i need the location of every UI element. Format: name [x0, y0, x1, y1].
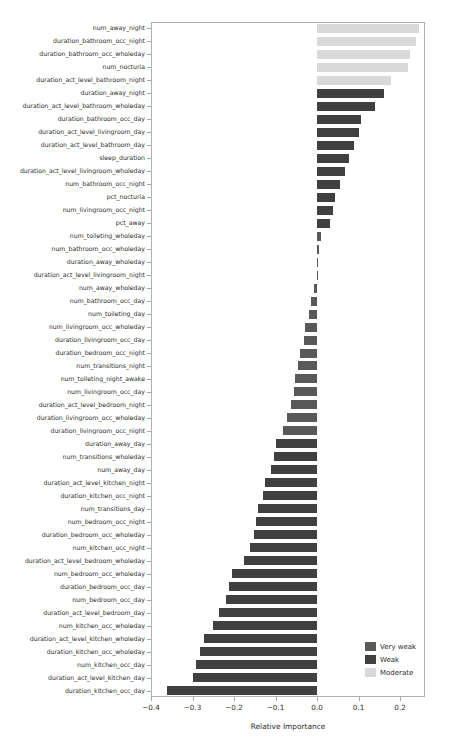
x-axis-tick-label: 0.2	[394, 703, 405, 712]
relative-importance-bar-chart: num_away_nightduration_bathroom_occ_nigh…	[0, 0, 451, 750]
bar	[317, 89, 384, 98]
bar	[276, 439, 318, 448]
y-axis-tick-label: duration_kitchen_occ_night	[0, 492, 145, 499]
y-axis-tick-label: num_toileting_wholeday	[0, 232, 145, 239]
bar	[294, 387, 317, 396]
y-axis-tick	[147, 288, 151, 289]
y-axis-tick	[147, 483, 151, 484]
bar	[317, 258, 318, 267]
y-axis-tick-label: duration_act_level_livingroom_day	[0, 128, 145, 135]
bar	[317, 154, 349, 163]
bar	[196, 660, 317, 669]
legend: Very weakWeakModerate	[361, 637, 421, 682]
bar	[213, 621, 317, 630]
y-axis-tick	[147, 652, 151, 653]
y-axis-tick	[147, 249, 151, 250]
x-axis-tick	[193, 697, 194, 701]
y-axis-tick	[147, 613, 151, 614]
y-axis-tick	[147, 418, 151, 419]
y-axis-tick-label: duration_act_level_kitchen_wholeday	[0, 635, 145, 642]
y-axis-tick-label: duration_act_level_bedroom_wholeday	[0, 557, 145, 564]
y-axis-tick-label: duration_bathroom_occ_night	[0, 37, 145, 44]
y-axis-tick-label: duration_act_level_kitchen_day	[0, 674, 145, 681]
y-axis-tick-label: num_bathroom_occ_day	[0, 297, 145, 304]
x-axis-tick	[317, 697, 318, 701]
y-axis-tick-label: num_transitions_day	[0, 505, 145, 512]
y-axis-tick-label: num_transitions_wholeday	[0, 453, 145, 460]
y-axis-tick	[147, 28, 151, 29]
x-axis-tick	[359, 697, 360, 701]
bar	[271, 465, 317, 474]
bar	[317, 37, 416, 46]
y-axis-tick	[147, 145, 151, 146]
x-axis-tick	[400, 697, 401, 701]
y-axis-tick-label: num_away_day	[0, 466, 145, 473]
y-axis-tick-label: num_bedroom_occ_wholeday	[0, 570, 145, 577]
y-axis-tick	[147, 548, 151, 549]
y-axis-tick	[147, 275, 151, 276]
y-axis-tick	[147, 509, 151, 510]
y-axis-tick-label: duration_livingroom_occ_wholeday	[0, 414, 145, 421]
y-axis-tick-label: num_transitions_night	[0, 362, 145, 369]
y-axis-tick-label: duration_act_level_bathroom_day	[0, 141, 145, 148]
y-axis-tick	[147, 600, 151, 601]
bar	[317, 63, 408, 72]
y-axis-tick-label: duration_kitchen_occ_day	[0, 687, 145, 694]
y-axis-tick-label: duration_act_level_bedroom_day	[0, 609, 145, 616]
y-axis-tick	[147, 522, 151, 523]
legend-item: Weak	[365, 653, 417, 666]
bar	[300, 349, 317, 358]
y-axis-tick-label: duration_act_level_livingroom_night	[0, 271, 145, 278]
bar	[305, 323, 317, 332]
bar	[317, 76, 391, 85]
y-axis-tick-label: duration_away_night	[0, 89, 145, 96]
bar	[193, 673, 318, 682]
bar	[317, 50, 410, 59]
legend-label: Weak	[380, 656, 399, 664]
y-axis-tick-label: duration_away_day	[0, 440, 145, 447]
y-axis-tick-label: duration_act_level_bedroom_night	[0, 401, 145, 408]
bar	[265, 478, 317, 487]
y-axis-tick	[147, 639, 151, 640]
y-axis-tick-label: num_nocturia	[0, 63, 145, 70]
bar	[232, 569, 317, 578]
bar	[317, 180, 340, 189]
y-axis-tick-label: num_bathroom_occ_night	[0, 180, 145, 187]
y-axis-tick-label: duration_bathroom_occ_day	[0, 115, 145, 122]
y-axis-tick	[147, 574, 151, 575]
y-axis-tick-label: pct_away	[0, 219, 145, 226]
bar	[304, 336, 317, 345]
y-axis-tick	[147, 340, 151, 341]
bar	[295, 374, 317, 383]
bar	[317, 206, 333, 215]
bar	[317, 24, 419, 33]
bar	[263, 491, 317, 500]
y-axis-tick-label: num_bathroom_occ_wholeday	[0, 245, 145, 252]
bar	[250, 543, 317, 552]
bar	[167, 686, 317, 695]
y-axis-tick	[147, 561, 151, 562]
bar	[317, 102, 375, 111]
legend-swatch-icon	[365, 642, 376, 651]
bar	[244, 556, 317, 565]
y-axis-tick	[147, 314, 151, 315]
bar	[229, 582, 317, 591]
bar	[256, 517, 317, 526]
y-axis-tick	[147, 54, 151, 55]
y-axis-tick-label: num_away_wholeday	[0, 284, 145, 291]
x-axis-tick-label: −0.2	[225, 703, 242, 712]
y-axis-tick	[147, 210, 151, 211]
x-axis-tick	[234, 697, 235, 701]
y-axis-tick-label: duration_livingroom_occ_night	[0, 427, 145, 434]
y-axis-tick	[147, 678, 151, 679]
y-axis-tick-label: num_livingroom_occ_night	[0, 206, 145, 213]
y-axis-tick	[147, 236, 151, 237]
y-axis-tick	[147, 405, 151, 406]
x-axis-title: Relative Importance	[151, 722, 425, 731]
y-axis-tick-label: num_toileting_night_awake	[0, 375, 145, 382]
y-axis-tick	[147, 353, 151, 354]
y-axis-tick-label: num_toileting_day	[0, 310, 145, 317]
y-axis-tick	[147, 665, 151, 666]
y-axis-tick-label: num_kitchen_occ_day	[0, 661, 145, 668]
y-axis-tick	[147, 158, 151, 159]
